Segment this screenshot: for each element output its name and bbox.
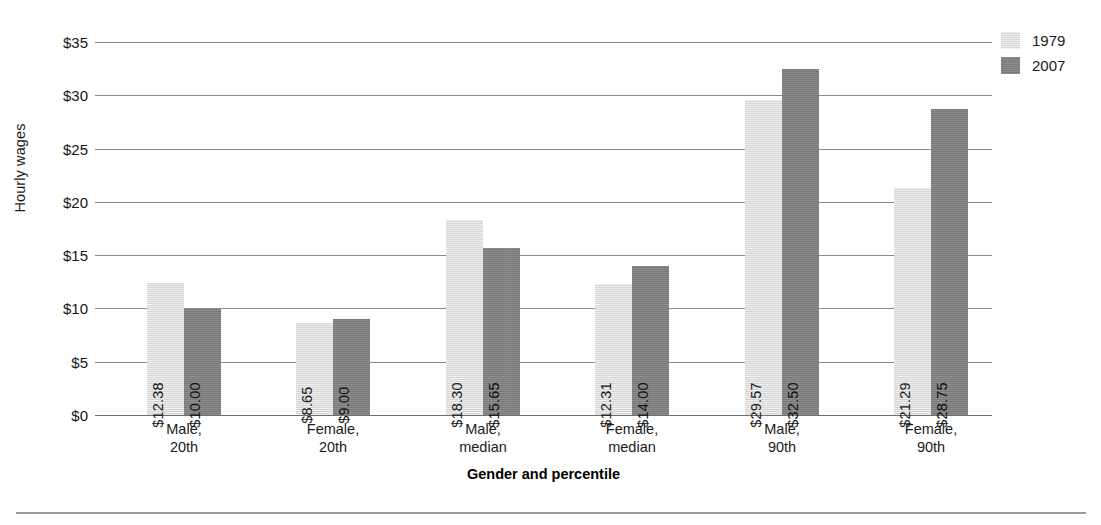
bottom-divider — [16, 512, 1086, 514]
x-category-label-line2: median — [552, 439, 712, 457]
x-category-label: Female,median — [552, 421, 712, 456]
bar-2007[interactable]: $32.50 — [782, 69, 819, 415]
plot-area: $12.38$10.00$8.65$9.00$18.30$15.65$12.31… — [95, 42, 992, 415]
gridline-15 — [95, 255, 992, 256]
bar-1979[interactable]: $8.65 — [296, 323, 333, 415]
bar-2007[interactable]: $28.75 — [931, 109, 968, 415]
bar-1979[interactable]: $29.57 — [745, 100, 782, 415]
gridline-25 — [95, 149, 992, 150]
x-category-label-line2: 90th — [851, 439, 1011, 457]
gridline-10 — [95, 308, 992, 309]
x-category-label-line1: Male, — [166, 421, 201, 437]
y-tick-label: $10 — [28, 300, 88, 317]
legend: 1979 2007 — [1001, 28, 1096, 78]
x-category-label: Male,median — [403, 421, 563, 456]
bar-2007[interactable]: $10.00 — [184, 308, 221, 415]
bar-2007[interactable]: $14.00 — [632, 266, 669, 415]
bar-group: $18.30$15.65 — [446, 42, 520, 415]
x-category-label: Male,20th — [104, 421, 264, 456]
legend-item-2007[interactable]: 2007 — [1001, 53, 1096, 78]
y-tick-label: $25 — [28, 140, 88, 157]
y-axis-title: Hourly wages — [12, 103, 28, 233]
bar-value-label: $9.00 — [336, 386, 352, 423]
bar-group: $12.31$14.00 — [595, 42, 669, 415]
x-category-label: Male,90th — [702, 421, 862, 456]
legend-swatch-1979 — [1001, 32, 1020, 49]
bar-group: $21.29$28.75 — [894, 42, 968, 415]
x-category-label-line1: Male, — [764, 421, 799, 437]
bar-chart: Hourly wages $0$5$10$15$20$25$30$35 $12.… — [0, 0, 1101, 525]
x-category-label: Female,20th — [253, 421, 413, 456]
bar-2007[interactable]: $9.00 — [333, 319, 370, 415]
x-category-label-line1: Female, — [606, 421, 658, 437]
x-category-label: Female,90th — [851, 421, 1011, 456]
x-category-label-line2: 90th — [702, 439, 862, 457]
y-tick-label: $5 — [28, 353, 88, 370]
bar-1979[interactable]: $12.38 — [147, 283, 184, 415]
x-category-label-line1: Female, — [905, 421, 957, 437]
y-tick-label: $20 — [28, 193, 88, 210]
bar-group: $29.57$32.50 — [745, 42, 819, 415]
gridline-5 — [95, 362, 992, 363]
bar-1979[interactable]: $21.29 — [894, 188, 931, 415]
y-tick-label: $15 — [28, 247, 88, 264]
x-category-label-line2: 20th — [253, 439, 413, 457]
y-tick-label: $35 — [28, 34, 88, 51]
bar-2007[interactable]: $15.65 — [483, 248, 520, 415]
bar-group: $12.38$10.00 — [147, 42, 221, 415]
bar-1979[interactable]: $18.30 — [446, 220, 483, 415]
legend-label-2007: 2007 — [1032, 57, 1065, 74]
x-category-label-line2: 20th — [104, 439, 264, 457]
x-category-label-line1: Female, — [307, 421, 359, 437]
gridline-20 — [95, 202, 992, 203]
bar-group: $8.65$9.00 — [296, 42, 370, 415]
gridline-35 — [95, 42, 992, 43]
y-tick-label: $30 — [28, 87, 88, 104]
bar-1979[interactable]: $12.31 — [595, 284, 632, 415]
legend-swatch-2007 — [1001, 57, 1020, 74]
legend-item-1979[interactable]: 1979 — [1001, 28, 1096, 53]
bar-value-label: $8.65 — [299, 386, 315, 423]
x-axis-title: Gender and percentile — [95, 466, 992, 482]
gridline-30 — [95, 95, 992, 96]
gridline-0 — [95, 415, 992, 416]
legend-label-1979: 1979 — [1032, 32, 1065, 49]
x-category-label-line2: median — [403, 439, 563, 457]
x-category-label-line1: Male, — [465, 421, 500, 437]
y-tick-label: $0 — [28, 407, 88, 424]
